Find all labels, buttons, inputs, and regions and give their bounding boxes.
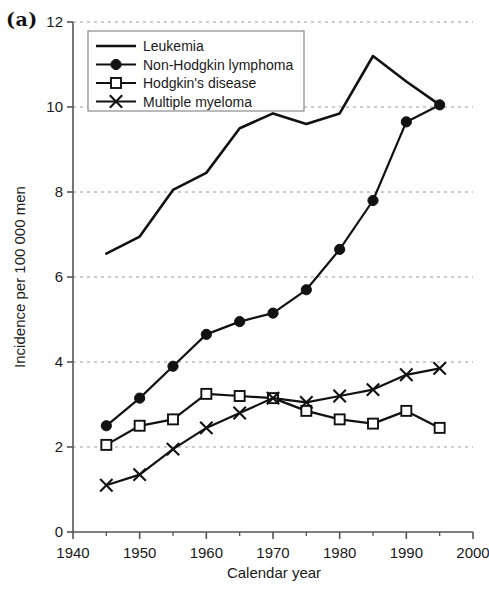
x-axis-title: Calendar year (227, 564, 321, 581)
data-point-marker (335, 414, 345, 424)
legend-label: Multiple myeloma (143, 94, 252, 110)
data-point-marker (368, 195, 378, 205)
data-point-marker (201, 329, 211, 339)
y-tick-label: 0 (55, 523, 63, 540)
data-point-marker (201, 389, 211, 399)
data-point-marker (435, 100, 445, 110)
y-tick-label: 2 (55, 438, 63, 455)
data-point-marker (168, 361, 178, 371)
data-point-marker (168, 414, 178, 424)
data-point-marker (100, 479, 112, 491)
chart-legend[interactable]: LeukemiaNon-Hodgkin lymphomaHodgkin's di… (88, 31, 304, 111)
data-series (100, 56, 446, 491)
series-line (106, 105, 439, 426)
x-tick-label: 1970 (256, 544, 289, 561)
data-point-marker (268, 308, 278, 318)
x-tick-label: 1950 (123, 544, 156, 561)
data-point-marker (235, 317, 245, 327)
legend-label: Leukemia (143, 38, 204, 54)
data-point-marker (101, 440, 111, 450)
y-axis-title: Incidence per 100 000 men (11, 186, 28, 368)
legend-item-hodgkin-s-disease[interactable]: Hodgkin's disease (96, 75, 256, 91)
series-line (106, 368, 439, 485)
y-tick-label: 8 (55, 183, 63, 200)
data-point-marker (301, 285, 311, 295)
data-point-marker (135, 421, 145, 431)
data-point-marker (335, 244, 345, 254)
y-tick-label: 12 (46, 13, 63, 30)
data-point-marker (401, 406, 411, 416)
data-point-marker (401, 117, 411, 127)
x-tick-label: 1960 (190, 544, 223, 561)
data-point-marker (167, 443, 179, 455)
data-point-marker (233, 407, 245, 419)
figure-panel: (a) 024681012194019501960197019801990200… (0, 0, 489, 596)
data-point-marker (301, 406, 311, 416)
x-tick-label: 1980 (323, 544, 356, 561)
legend-label: Hodgkin's disease (143, 75, 256, 91)
data-point-marker (200, 422, 212, 434)
legend-sample-marker (111, 78, 121, 88)
x-tick-label: 2000 (456, 544, 489, 561)
data-point-marker (133, 468, 145, 480)
y-tick-label: 4 (55, 353, 63, 370)
data-point-marker (435, 423, 445, 433)
x-tick-label: 1990 (390, 544, 423, 561)
x-tick-label: 1940 (56, 544, 89, 561)
incidence-line-chart: 0246810121940195019601970198019902000 Le… (0, 0, 489, 596)
y-tick-label: 10 (46, 98, 63, 115)
data-point-marker (101, 421, 111, 431)
data-point-marker (368, 419, 378, 429)
data-point-marker (235, 391, 245, 401)
legend-label: Non-Hodgkin lymphoma (143, 57, 293, 73)
legend-sample-marker (111, 59, 121, 69)
y-tick-label: 6 (55, 268, 63, 285)
series-multiple-myeloma (100, 362, 446, 491)
data-point-marker (135, 393, 145, 403)
